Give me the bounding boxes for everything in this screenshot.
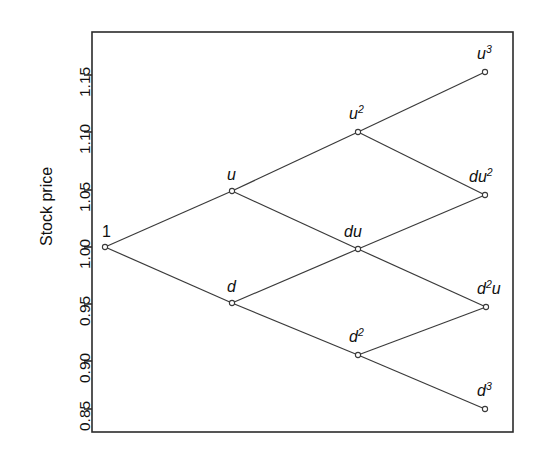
tree-node-d3[interactable] [482,406,487,411]
tree-node-d2u[interactable] [483,304,488,309]
tree-edge [358,132,485,195]
node-label-d2: d2 [349,328,364,346]
y-tick-label: 1.10 [76,124,94,154]
tree-edge [105,247,232,303]
tree-nodes-group [102,69,488,411]
chart-canvas: Stock price 0.850.900.951.001.051.101.15… [0,0,538,467]
node-label-d3: d3 [477,382,492,400]
tree-edge [358,355,485,409]
node-label-root: 1 [102,223,111,241]
tree-node-root[interactable] [102,244,107,249]
y-axis-title: Stock price [38,167,56,246]
node-label-d: d [227,278,236,296]
y-tick-label: 0.90 [76,353,94,383]
node-label-du2: du2 [469,168,493,186]
tree-edge [232,249,358,303]
tree-edge [105,191,232,247]
y-tick-label: 1.05 [76,182,94,212]
tree-node-du[interactable] [355,246,360,251]
y-tick-label: 0.85 [76,401,94,431]
tree-edge [358,249,486,307]
y-tick-label: 0.95 [76,296,94,326]
tree-edge [232,132,358,191]
y-tick-label: 1.00 [76,239,94,269]
tree-node-u2[interactable] [355,129,360,134]
tree-edge [358,72,485,132]
plot-frame [92,32,513,432]
node-label-du: du [344,223,362,241]
node-label-u3: u3 [477,45,492,63]
tree-node-du2[interactable] [482,192,487,197]
y-tick-label: 1.15 [76,67,94,97]
node-label-u: u [227,166,236,184]
tree-edge [232,303,358,355]
tree-node-d[interactable] [229,300,234,305]
node-label-u2: u2 [349,105,364,123]
tree-node-d2[interactable] [355,352,360,357]
node-label-d2u: d2u [477,280,501,298]
tree-edge [358,307,486,355]
tree-edge [232,191,358,249]
tree-node-u3[interactable] [482,69,487,74]
tree-edges-group [105,72,486,409]
tree-node-u[interactable] [229,188,234,193]
tree-edge [358,195,485,249]
